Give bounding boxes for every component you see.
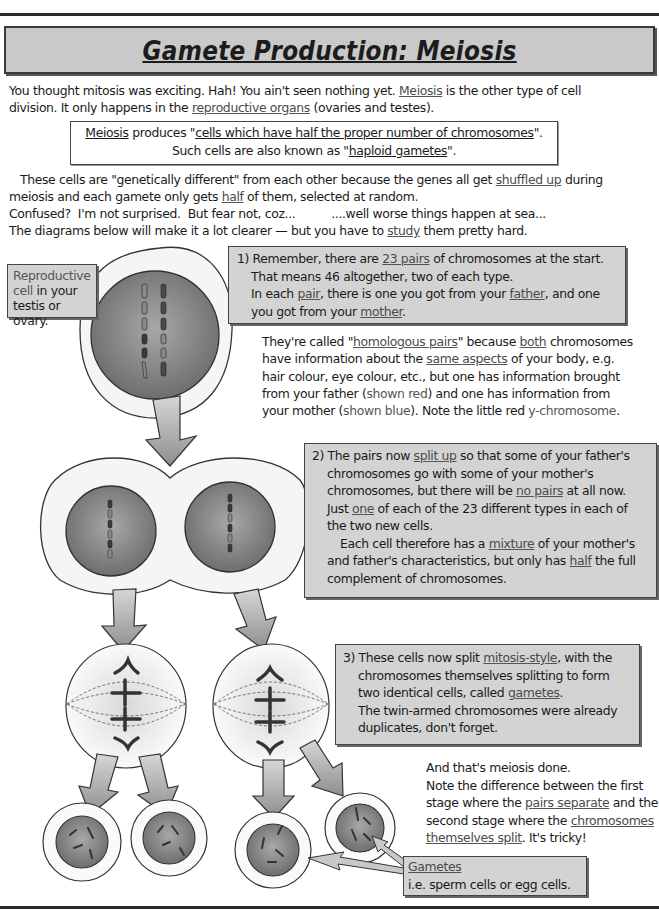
gamete-1 bbox=[43, 803, 121, 881]
label-gametes: Gametes i.e. sperm cells or egg cells. bbox=[403, 856, 587, 896]
conclusion-paragraph: And that's meiosis done. Note the differ… bbox=[426, 759, 658, 847]
arrow-down-2a bbox=[102, 589, 146, 651]
arrow-down-2b bbox=[234, 589, 276, 650]
arrow-down-3c bbox=[253, 760, 294, 818]
step-1-box: 1) Remember, there are 23 pairs of chrom… bbox=[228, 246, 626, 324]
step-3-box: 3) These cells now split mitosis-style, … bbox=[335, 644, 640, 745]
parent-cell bbox=[80, 247, 232, 418]
dividing-cell-left bbox=[66, 644, 186, 768]
gamete-2 bbox=[131, 800, 207, 876]
two-cells bbox=[41, 458, 309, 594]
arrow-down-3d bbox=[300, 740, 343, 796]
gamete-3 bbox=[235, 812, 311, 888]
label-reproductive-cell: Reproductive cell in your testis or ovar… bbox=[7, 264, 97, 318]
bottom-rule bbox=[0, 906, 659, 909]
step-2-box: 2) The pairs now split up so that some o… bbox=[304, 443, 657, 598]
homologous-paragraph: They're called "homologous pairs" becaus… bbox=[262, 333, 657, 419]
gamete-4 bbox=[325, 793, 395, 863]
